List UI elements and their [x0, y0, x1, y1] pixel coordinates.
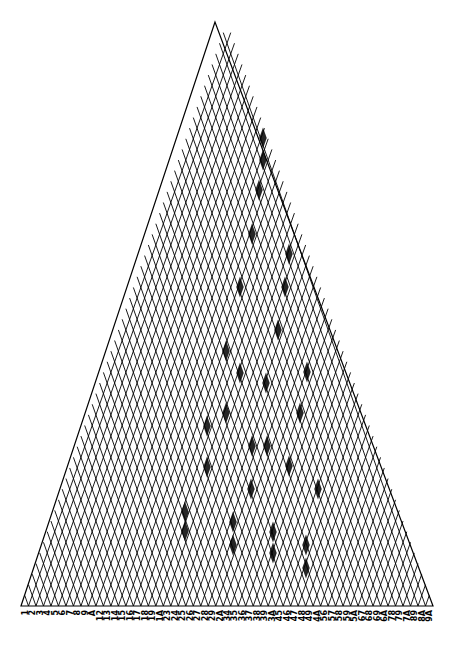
lattice-line	[291, 404, 362, 606]
filled-diamond-cell	[269, 521, 276, 542]
lattice-line	[100, 383, 179, 606]
lattice-line	[216, 298, 325, 606]
lattice-line	[62, 489, 103, 606]
lattice-line	[70, 468, 119, 606]
lattice-line	[197, 107, 373, 606]
filled-diamond-cell	[247, 478, 254, 499]
base-label: 9A	[425, 609, 434, 622]
lattice-line	[126, 171, 280, 606]
filled-diamond-cell	[314, 478, 321, 499]
lattice-line	[366, 510, 400, 606]
lattice-line	[115, 341, 209, 606]
lattice-grid	[25, 33, 430, 606]
lattice-line	[220, 43, 419, 606]
base-labels: 123456789A12131415161718191A232425262728…	[21, 609, 435, 622]
lattice-line	[201, 277, 317, 606]
lattice-diagram: 123456789A12131415161718191A232425262728…	[0, 0, 451, 646]
lattice-line	[246, 341, 340, 606]
lattice-line	[276, 383, 355, 606]
lattice-line	[92, 404, 163, 606]
triangle-outline	[21, 22, 433, 606]
lattice-line	[40, 553, 59, 606]
lattice-line	[426, 595, 430, 606]
lattice-line	[212, 64, 403, 606]
filled-diamond-cell	[262, 372, 269, 393]
triangle-border	[21, 22, 433, 606]
lattice-line	[66, 86, 250, 606]
lattice-line	[51, 64, 242, 606]
lattice-line	[171, 234, 302, 606]
lattice-line	[141, 192, 287, 606]
lattice-line	[25, 595, 29, 606]
filled-cells	[181, 127, 321, 578]
filled-diamond-cell	[285, 455, 292, 476]
lattice-line	[77, 447, 133, 606]
lattice-line	[152, 234, 283, 606]
lattice-line	[47, 532, 73, 606]
lattice-line	[351, 489, 392, 606]
filled-diamond-cell	[302, 534, 309, 555]
lattice-line	[137, 277, 253, 606]
lattice-line	[321, 447, 377, 606]
filled-diamond-cell	[303, 361, 310, 382]
lattice-line	[396, 553, 415, 606]
filled-diamond-cell	[229, 534, 236, 555]
filled-diamond-cell	[269, 542, 276, 563]
lattice-line	[130, 298, 239, 606]
lattice-line	[55, 510, 89, 606]
